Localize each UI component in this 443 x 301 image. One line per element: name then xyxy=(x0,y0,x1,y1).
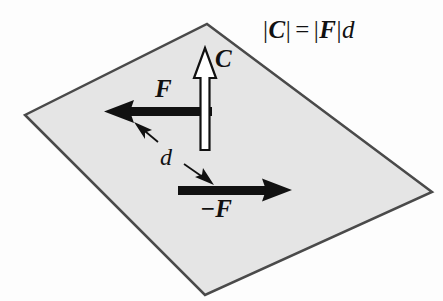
label-distance-d: d xyxy=(160,145,172,169)
equation-vector-F: F xyxy=(319,16,336,43)
equation-operator-equals: = xyxy=(291,16,314,43)
equation-scalar-d: d xyxy=(342,16,355,43)
label-vector-F: F xyxy=(155,76,172,101)
label-vector-minus-F: −F xyxy=(200,196,232,221)
physics-figure-couple-moment: |C|=|F|d C F −F d xyxy=(0,0,443,301)
equation-moment-magnitude: |C|=|F|d xyxy=(263,17,355,42)
equation-vector-C: C xyxy=(269,16,286,43)
label-vector-C: C xyxy=(215,46,232,71)
